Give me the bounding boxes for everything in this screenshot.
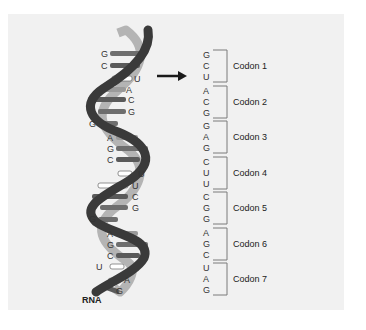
svg-text:A: A bbox=[126, 85, 132, 95]
svg-text:Codon 3: Codon 3 bbox=[233, 132, 267, 142]
svg-text:G: G bbox=[203, 285, 210, 295]
svg-text:U: U bbox=[138, 169, 145, 179]
svg-text:Codon 4: Codon 4 bbox=[233, 168, 267, 178]
codon-list: G C U Codon 1 A C G Codon 2 G A G Codon … bbox=[203, 50, 267, 295]
svg-text:C: C bbox=[203, 250, 210, 260]
svg-text:G: G bbox=[132, 203, 139, 213]
svg-text:C: C bbox=[128, 95, 135, 105]
codon-4: C U U Codon 4 bbox=[203, 157, 267, 189]
svg-text:C: C bbox=[203, 61, 210, 71]
svg-text:Codon 5: Codon 5 bbox=[233, 203, 267, 213]
svg-text:U: U bbox=[96, 262, 103, 272]
svg-text:G: G bbox=[203, 50, 210, 60]
svg-text:G: G bbox=[101, 49, 108, 59]
svg-text:G: G bbox=[203, 108, 210, 118]
base-bar-c bbox=[116, 253, 140, 258]
svg-text:C: C bbox=[101, 61, 108, 71]
svg-text:G: G bbox=[116, 286, 123, 296]
svg-text:G: G bbox=[107, 144, 114, 154]
svg-text:U: U bbox=[203, 168, 210, 178]
base-bar-g bbox=[100, 205, 128, 210]
svg-text:G: G bbox=[203, 214, 210, 224]
svg-text:U: U bbox=[132, 181, 139, 191]
svg-text:G: G bbox=[89, 214, 96, 224]
svg-text:A: A bbox=[203, 228, 209, 238]
arrow-icon bbox=[157, 71, 187, 81]
svg-text:G: G bbox=[203, 239, 210, 249]
svg-text:C: C bbox=[203, 97, 210, 107]
codon-6: A G C Codon 6 bbox=[203, 228, 267, 260]
codon-2: A C G Codon 2 bbox=[203, 86, 267, 118]
svg-text:Codon 6: Codon 6 bbox=[233, 239, 267, 249]
svg-text:C: C bbox=[107, 251, 114, 261]
codon-1: G C U Codon 1 bbox=[203, 50, 267, 82]
svg-text:A: A bbox=[203, 132, 209, 142]
rna-label: RNA bbox=[82, 295, 102, 305]
codon-3: G A G Codon 3 bbox=[203, 121, 267, 153]
base-bar-c bbox=[116, 157, 140, 162]
svg-text:G: G bbox=[107, 240, 114, 250]
base-bar-g bbox=[98, 109, 126, 114]
svg-text:C: C bbox=[203, 192, 210, 202]
svg-text:C: C bbox=[132, 192, 139, 202]
svg-text:G: G bbox=[203, 143, 210, 153]
codon-5: C G G Codon 5 bbox=[203, 192, 267, 224]
svg-text:U: U bbox=[203, 263, 210, 273]
svg-text:A: A bbox=[107, 133, 113, 143]
svg-text:C: C bbox=[203, 157, 210, 167]
svg-text:U: U bbox=[203, 72, 210, 82]
codon-7: U A G Codon 7 bbox=[203, 263, 267, 295]
svg-text:G: G bbox=[89, 119, 96, 129]
svg-text:G: G bbox=[203, 121, 210, 131]
svg-text:C: C bbox=[107, 155, 114, 165]
svg-text:A: A bbox=[203, 274, 209, 284]
svg-text:A: A bbox=[124, 275, 130, 285]
svg-text:Codon 2: Codon 2 bbox=[233, 97, 267, 107]
svg-text:Codon 1: Codon 1 bbox=[233, 61, 267, 71]
rna-codon-diagram: G C U A C G G A G C U U C G G A G C U A … bbox=[0, 0, 366, 330]
base-bar-u bbox=[110, 264, 124, 269]
svg-text:G: G bbox=[128, 107, 135, 117]
svg-text:A: A bbox=[107, 229, 113, 239]
svg-text:A: A bbox=[203, 86, 209, 96]
svg-text:U: U bbox=[134, 74, 141, 84]
svg-text:G: G bbox=[203, 203, 210, 213]
svg-text:Codon 7: Codon 7 bbox=[233, 274, 267, 284]
svg-text:U: U bbox=[203, 179, 210, 189]
